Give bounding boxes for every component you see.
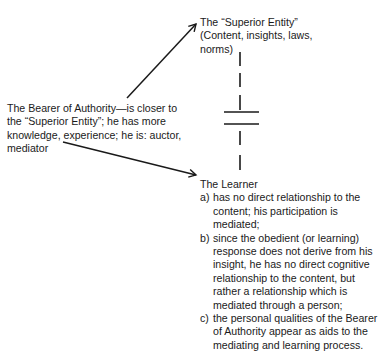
text-line: content; his participation is bbox=[213, 205, 377, 218]
learner-block: The Learner a) has no direct relationshi… bbox=[200, 178, 377, 352]
text-line: mediator bbox=[7, 142, 181, 155]
learner-item-c: c) the personal qualities of the Bearer … bbox=[200, 312, 377, 352]
superior-entity-label: The “Superior Entity” (Content, insights… bbox=[200, 16, 312, 56]
text-line: The “Superior Entity” bbox=[200, 16, 312, 29]
text-line: mediating and learning process. bbox=[213, 339, 377, 352]
text-line: of Authority appear as aids to the bbox=[213, 325, 377, 338]
text-line: response does not derive from his bbox=[213, 245, 377, 258]
text-line: since the obedient (or learning) bbox=[213, 232, 377, 245]
item-label: b) bbox=[200, 232, 209, 245]
item-label: a) bbox=[200, 191, 209, 204]
arrow-bearer-to-superior bbox=[127, 24, 196, 98]
text-line: insight, he has no direct cognitive bbox=[213, 258, 377, 271]
text-line: relationship to the content, but bbox=[213, 272, 377, 285]
text-line: the “Superior Entity”; he has more bbox=[7, 115, 181, 128]
text-line: The Bearer of Authority—is closer to bbox=[7, 102, 181, 115]
text-line: the personal qualities of the Bearer bbox=[213, 312, 377, 325]
text-line: has no direct relationship to the bbox=[213, 191, 377, 204]
text-line: norms) bbox=[200, 43, 312, 56]
text-line: rather a relationship which is bbox=[213, 285, 377, 298]
learner-item-b: b) since the obedient (or learning) resp… bbox=[200, 232, 377, 312]
text-line: knowledge, experience; he is: auctor, bbox=[7, 129, 181, 142]
learner-title: The Learner bbox=[200, 178, 377, 191]
bearer-of-authority-label: The Bearer of Authority—is closer to the… bbox=[7, 102, 181, 156]
dashed-link bbox=[224, 52, 259, 170]
text-line: mediated; bbox=[213, 218, 377, 231]
item-label: c) bbox=[200, 312, 209, 325]
learner-item-a: a) has no direct relationship to the con… bbox=[200, 191, 377, 231]
text-line: (Content, insights, laws, bbox=[200, 29, 312, 42]
text-line: mediated through a person; bbox=[213, 299, 377, 312]
